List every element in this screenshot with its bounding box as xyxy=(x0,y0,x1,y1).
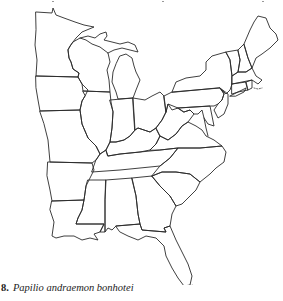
state-missouri xyxy=(40,110,100,163)
state-indiana xyxy=(110,98,135,142)
state-ohio xyxy=(133,92,166,132)
state-kentucky xyxy=(106,128,160,156)
eastern-us-map xyxy=(0,0,283,285)
state-maine xyxy=(244,16,278,68)
cape-islands xyxy=(254,88,262,89)
state-new-york xyxy=(172,52,232,94)
state-michigan-up xyxy=(80,32,138,53)
state-florida xyxy=(116,224,192,285)
state-west-virginia xyxy=(156,104,194,140)
species-name: Papilio andraemon bonhotei xyxy=(13,282,134,293)
state-new-jersey xyxy=(214,88,228,118)
state-michigan-lp xyxy=(112,54,140,99)
state-illinois xyxy=(80,91,113,154)
state-rhode-island xyxy=(246,80,252,90)
figure-number: 8. xyxy=(1,282,9,293)
state-alabama xyxy=(105,178,140,232)
state-mississippi xyxy=(76,180,106,232)
state-tennessee xyxy=(92,148,178,172)
state-maryland xyxy=(178,106,214,126)
state-georgia xyxy=(132,176,176,232)
state-south-carolina xyxy=(152,172,200,206)
figure-caption: 8.Papilio andraemon bonhotei xyxy=(1,282,134,293)
state-minnesota xyxy=(35,8,94,77)
state-wisconsin xyxy=(68,38,110,92)
state-arkansas xyxy=(47,162,94,201)
state-north-carolina xyxy=(152,146,226,182)
